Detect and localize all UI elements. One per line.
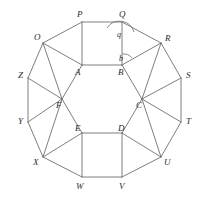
vertex-label-B: B bbox=[118, 67, 124, 77]
outer-edge-TU bbox=[161, 122, 181, 157]
vertex-label-Z: Z bbox=[18, 70, 24, 80]
connecting-spokes bbox=[28, 22, 181, 177]
angle-b-at-B-arc bbox=[122, 54, 132, 58]
spoke-D-U bbox=[122, 133, 161, 157]
vertex-label-R: R bbox=[164, 33, 171, 43]
vertex-label-O: O bbox=[34, 32, 41, 42]
spoke-E-X bbox=[43, 133, 82, 157]
vertex-label-C: C bbox=[136, 100, 143, 110]
inner-edge-BC bbox=[122, 65, 142, 99]
geometry-figure: OPQRSTUVWXYZABCDEF qb bbox=[0, 0, 201, 199]
outer-edge-RS bbox=[161, 43, 181, 78]
outer-edge-XY bbox=[28, 122, 43, 157]
vertex-label-A: A bbox=[74, 67, 81, 77]
outer-edge-ZO bbox=[28, 43, 43, 78]
vertex-label-W: W bbox=[76, 181, 85, 191]
spoke-C-U bbox=[142, 99, 161, 157]
outer-edge-OP bbox=[43, 22, 82, 43]
spoke-F-Z bbox=[28, 78, 62, 99]
spoke-A-O bbox=[43, 43, 82, 65]
outer-polygon-edges bbox=[28, 22, 181, 177]
vertex-label-E: E bbox=[74, 123, 81, 133]
inner-hexagon-edges bbox=[62, 65, 142, 133]
spoke-C-T bbox=[142, 99, 181, 122]
vertex-label-X: X bbox=[32, 157, 39, 167]
outer-edge-UV bbox=[122, 157, 161, 177]
vertex-label-V: V bbox=[119, 181, 126, 191]
outer-edge-QR bbox=[122, 22, 161, 43]
vertex-label-Q: Q bbox=[119, 9, 126, 19]
vertex-label-D: D bbox=[117, 123, 125, 133]
spoke-B-R bbox=[122, 43, 161, 65]
vertex-label-S: S bbox=[186, 70, 191, 80]
vertex-label-P: P bbox=[76, 9, 83, 19]
vertex-label-U: U bbox=[164, 157, 171, 167]
vertex-label-Y: Y bbox=[18, 116, 24, 126]
dodecagon-diagram: OPQRSTUVWXYZABCDEF qb bbox=[0, 0, 201, 199]
vertex-labels: OPQRSTUVWXYZABCDEF bbox=[18, 9, 192, 191]
angle-b-at-B-label: b bbox=[119, 54, 123, 63]
vertex-label-T: T bbox=[186, 116, 192, 126]
vertex-label-F: F bbox=[55, 100, 62, 110]
angle-q-at-Q-label: q bbox=[117, 30, 121, 39]
outer-edge-WX bbox=[43, 157, 82, 177]
spoke-F-O bbox=[43, 43, 62, 99]
